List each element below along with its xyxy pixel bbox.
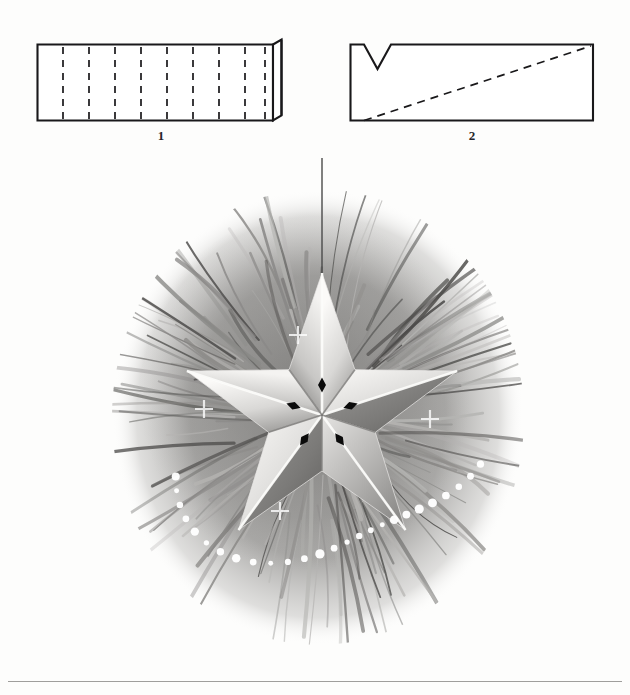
diagram-2: 2: [332, 28, 612, 148]
garland-bead: [268, 561, 273, 566]
garland-bead: [477, 461, 484, 468]
illustration-canvas: [0, 155, 630, 665]
diagram-1: 1: [20, 28, 300, 148]
craft-instruction-page: 1 2: [0, 0, 630, 695]
garland-bead: [217, 548, 224, 555]
diagram-1-label: 1: [141, 128, 181, 144]
garland-bead: [177, 502, 184, 509]
garland-bead: [172, 473, 180, 481]
diagram-2-label: 2: [452, 128, 492, 144]
garland-bead: [301, 555, 308, 562]
garland-bead: [368, 527, 374, 533]
garland-bead: [428, 498, 437, 507]
garland-bead: [415, 505, 424, 514]
garland-bead: [183, 515, 190, 522]
garland-bead: [402, 511, 410, 519]
garland-bead: [315, 549, 324, 558]
notched-strip-outline: [351, 45, 594, 121]
footer-rule: [8, 681, 622, 682]
strip-outline: [38, 45, 274, 121]
garland-bead: [204, 540, 209, 545]
garland-bead: [380, 522, 385, 527]
garland-bead: [344, 539, 349, 544]
garland-bead: [331, 545, 338, 552]
garland-bead: [285, 559, 291, 565]
garland-bead: [356, 533, 362, 539]
garland-bead: [250, 559, 257, 566]
garland-bead: [456, 483, 463, 490]
star-ornament-illustration: [0, 155, 630, 665]
diagram-row: 1 2: [0, 0, 630, 160]
garland-bead: [442, 492, 450, 500]
strip-right-flap: [273, 40, 282, 121]
garland-bead: [232, 554, 241, 563]
garland-bead: [467, 473, 474, 480]
garland-bead: [191, 527, 199, 535]
garland-bead: [174, 488, 179, 493]
garland-bead: [390, 515, 399, 524]
